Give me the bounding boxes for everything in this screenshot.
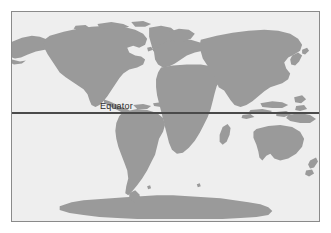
equator-label: Equator xyxy=(100,101,133,111)
world-map-figure: Equator xyxy=(0,0,331,233)
map-frame: Equator xyxy=(11,11,320,222)
map-canvas xyxy=(12,12,319,221)
